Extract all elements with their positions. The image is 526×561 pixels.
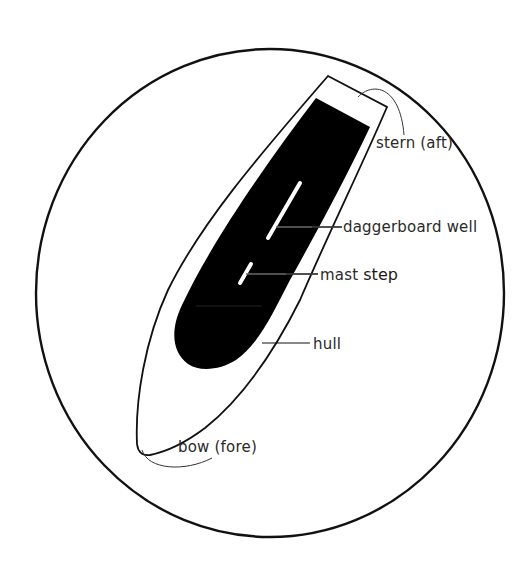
sailboat-hull-diagram: stern (aft) daggerboard well mast step h…	[0, 0, 526, 561]
bow-label: bow (fore)	[178, 438, 257, 456]
hull-label: hull	[313, 335, 341, 353]
daggerboard-label: daggerboard well	[343, 218, 477, 236]
mast-step-label-mast: mast	[320, 266, 363, 284]
mast-step-label: mast step	[320, 265, 398, 284]
stern-label: stern (aft)	[376, 134, 453, 152]
mast-step-label-step: step	[363, 265, 398, 284]
